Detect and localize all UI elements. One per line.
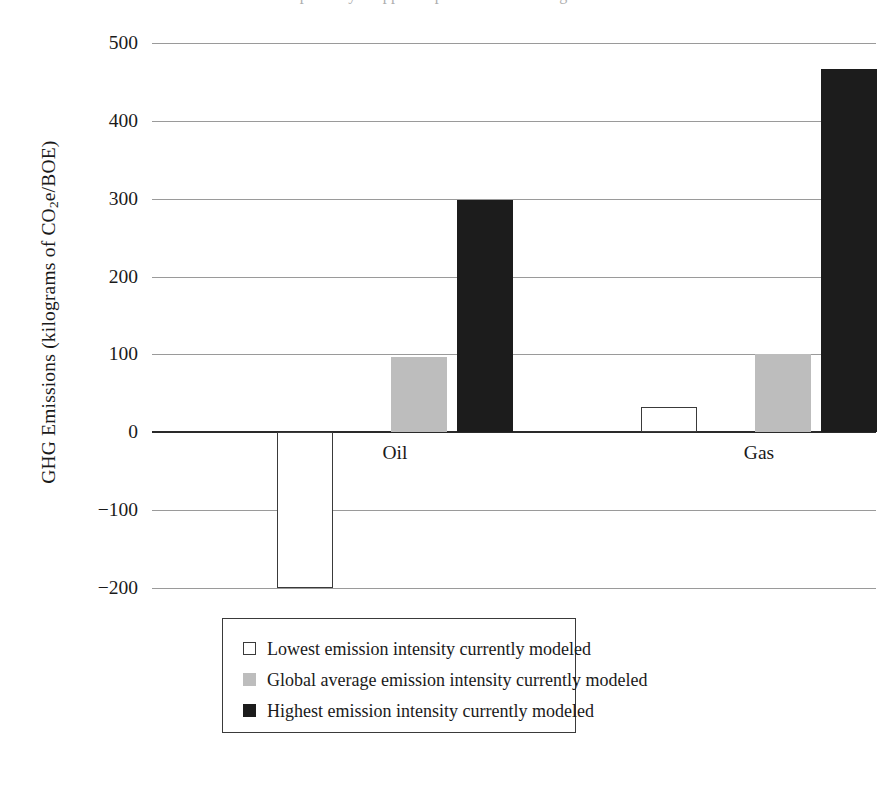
bar-gas-highest[interactable] (821, 69, 877, 432)
gridline (152, 277, 876, 278)
gridline (152, 199, 876, 200)
bar-gas-lowest[interactable] (641, 407, 697, 432)
y-tick-label: −200 (76, 578, 138, 598)
legend-swatch-lowest-icon (243, 642, 256, 655)
gridline (152, 43, 876, 44)
y-axis-title-subscript: 2 (46, 201, 61, 208)
y-axis-tick-labels: 5004003002001000−100−200 (76, 43, 138, 588)
category-label-gas: Gas (719, 442, 799, 464)
bar-oil-lowest[interactable] (277, 432, 333, 588)
y-tick-label: 400 (76, 111, 138, 131)
y-tick-label: 500 (76, 33, 138, 53)
legend-swatch-highest-icon (243, 704, 256, 717)
bar-oil-highest[interactable] (457, 200, 513, 432)
gridline (152, 510, 876, 511)
y-axis-title-suffix: e/BOE) (38, 140, 59, 201)
legend-label-highest: Highest emission intensity currently mod… (267, 702, 594, 720)
legend-label-average: Global average emission intensity curren… (267, 671, 647, 689)
plot-area: OilGas (152, 43, 876, 588)
bar-gas-average[interactable] (755, 354, 811, 432)
legend-item: Highest emission intensity currently mod… (243, 696, 575, 725)
category-label-oil: Oil (355, 442, 435, 464)
y-tick-label: −100 (76, 500, 138, 520)
legend-swatch-average-icon (243, 673, 256, 686)
y-axis-title-prefix: GHG Emissions (kilograms of CO (38, 208, 59, 484)
legend-label-lowest: Lowest emission intensity currently mode… (267, 640, 591, 658)
gridline (152, 121, 876, 122)
y-tick-label: 0 (76, 422, 138, 442)
legend-item: Global average emission intensity curren… (243, 665, 575, 694)
legend-item: Lowest emission intensity currently mode… (243, 634, 575, 663)
y-tick-label: 300 (76, 189, 138, 209)
gridline (152, 588, 876, 589)
y-axis-title: GHG Emissions (kilograms of CO2e/BOE) (38, 32, 62, 592)
y-tick-label: 200 (76, 267, 138, 287)
legend: Lowest emission intensity currently mode… (222, 618, 576, 733)
y-tick-label: 100 (76, 344, 138, 364)
bar-oil-average[interactable] (391, 357, 447, 433)
